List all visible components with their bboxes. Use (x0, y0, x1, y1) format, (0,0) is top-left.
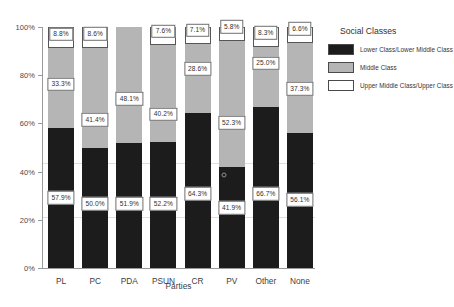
legend-item[interactable]: Upper Middle Class/Upper Class (328, 79, 450, 91)
value-label: 40.2% (150, 107, 177, 121)
bar-segment[interactable] (82, 48, 108, 148)
legend-color-swatch (328, 44, 354, 55)
bar-column[interactable]: 64.3%28.6%7.1% (185, 27, 211, 268)
legend-color-swatch (328, 80, 354, 91)
y-tick-mark (38, 268, 42, 269)
y-tick-label: 60% (20, 119, 35, 128)
bar-column[interactable]: 66.7%25.0%8.3% (253, 27, 279, 268)
bar-column[interactable]: 51.9%48.1% (116, 27, 142, 268)
value-label: 6.6% (288, 22, 311, 36)
legend: Social Classes Lower Class/Lower Middle … (328, 26, 450, 97)
value-label: 57.9% (47, 191, 74, 205)
bar-segment[interactable] (150, 45, 176, 142)
bar-column[interactable]: 50.0%41.4%8.6% (82, 27, 108, 268)
value-label: 51.9% (116, 197, 143, 211)
bar-column[interactable]: 41.9%52.3%5.8% (219, 27, 245, 268)
bar-column[interactable]: 57.9%33.3%8.8% (48, 27, 74, 268)
legend-item-label: Upper Middle Class/Upper Class (360, 82, 453, 89)
y-tick-label: 20% (20, 215, 35, 224)
value-label: 48.1% (116, 92, 143, 106)
value-label: 8.6% (83, 27, 106, 41)
value-label: 25.0% (252, 56, 279, 70)
legend-item-label: Lower Class/Lower Middle Class (360, 46, 453, 53)
value-label: 8.8% (49, 27, 72, 41)
y-tick-label: 40% (20, 167, 35, 176)
y-tick-label: 100% (15, 23, 35, 32)
bar-segment[interactable] (219, 41, 245, 167)
plot-area: 0%20%40%60%80%100% 57.9%33.3%8.8%50.0%41… (42, 27, 315, 270)
x-axis-line (42, 268, 315, 269)
value-label: 52.3% (218, 116, 245, 130)
value-label: 5.8% (220, 20, 243, 34)
value-label: 50.0% (82, 197, 109, 211)
value-label: 66.7% (252, 187, 279, 201)
data-point-marker (222, 173, 227, 178)
bar-segment[interactable] (219, 167, 245, 268)
legend-item[interactable]: Lower Class/Lower Middle Class (328, 43, 450, 55)
value-label: 7.6% (152, 25, 175, 39)
bar-group: 57.9%33.3%8.8%50.0%41.4%8.6%51.9%48.1%52… (42, 27, 315, 268)
legend-color-swatch (328, 62, 354, 73)
value-label: 37.3% (286, 82, 313, 96)
bar-segment[interactable] (185, 44, 211, 113)
legend-item[interactable]: Middle Class (328, 61, 450, 73)
value-label: 41.9% (218, 201, 245, 215)
value-label: 56.1% (286, 193, 313, 207)
value-label: 28.6% (184, 62, 211, 76)
bar-segment[interactable] (116, 27, 142, 143)
bar-column[interactable]: 56.1%37.3%6.6% (287, 27, 313, 268)
y-tick-label: 80% (20, 71, 35, 80)
y-tick-label: 0% (24, 264, 35, 273)
value-label: 7.1% (186, 23, 209, 37)
bar-column[interactable]: 52.2%40.2%7.6% (150, 27, 176, 268)
value-label: 41.4% (82, 113, 109, 127)
legend-title: Social Classes (340, 26, 450, 36)
value-label: 64.3% (184, 187, 211, 201)
legend-item-label: Middle Class (360, 64, 397, 71)
value-label: 33.3% (47, 78, 74, 92)
x-axis-title: Parties (42, 281, 315, 291)
stacked-bar-chart: 0%20%40%60%80%100% 57.9%33.3%8.8%50.0%41… (0, 0, 454, 307)
value-label: 8.3% (254, 26, 277, 40)
value-label: 52.2% (150, 197, 177, 211)
